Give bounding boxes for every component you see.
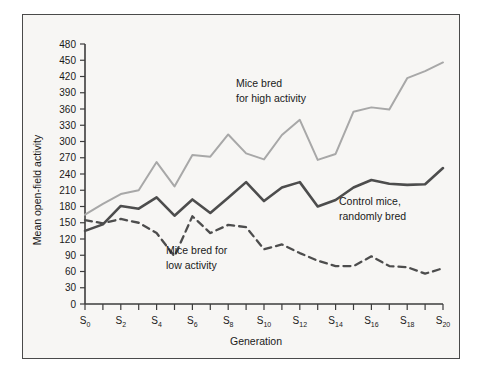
x-tick-label: S12 bbox=[293, 315, 308, 328]
x-tick-label: S6 bbox=[187, 315, 198, 328]
y-tick-label: 420 bbox=[59, 71, 76, 82]
y-tick-label: 210 bbox=[59, 185, 76, 196]
x-tick-label: S2 bbox=[116, 315, 127, 328]
x-tick-label: S10 bbox=[257, 315, 272, 328]
annotation-low-line1: Mice bred for bbox=[166, 244, 228, 256]
annotation-control-line2: randomly bred bbox=[339, 210, 406, 222]
y-tick-label: 30 bbox=[65, 282, 77, 293]
x-tick-label: S20 bbox=[436, 315, 451, 328]
y-tick-label: 450 bbox=[59, 55, 76, 66]
y-tick-label: 90 bbox=[65, 250, 77, 261]
y-tick-label: 390 bbox=[59, 87, 76, 98]
x-tick-label: S16 bbox=[364, 315, 379, 328]
chart-plot-area: Mean open-field activity 030609012015018… bbox=[23, 15, 459, 358]
y-tick-label: 300 bbox=[59, 136, 76, 147]
x-tick-label: S18 bbox=[400, 315, 415, 328]
y-tick-label: 150 bbox=[59, 217, 76, 228]
annotation-control-line1: Control mice, bbox=[339, 195, 401, 207]
x-axis-tick-labels: S0S2S4S6S8S10S12S14S16S18S20 bbox=[80, 315, 451, 328]
y-tick-label: 330 bbox=[59, 120, 76, 131]
series-line-low-activity bbox=[85, 216, 443, 273]
chart-figure: Mean open-field activity 030609012015018… bbox=[22, 14, 460, 359]
x-tick-label: S8 bbox=[223, 315, 234, 328]
y-tick-label: 240 bbox=[59, 169, 76, 180]
y-tick-label: 480 bbox=[59, 39, 76, 50]
y-axis-tick-labels: 0306090120150180210240270300330360390420… bbox=[59, 39, 76, 310]
y-tick-label: 180 bbox=[59, 201, 76, 212]
annotation-high-line1: Mice bred bbox=[236, 77, 282, 89]
x-axis-tick-marks bbox=[85, 304, 443, 310]
x-tick-label: S4 bbox=[151, 315, 162, 328]
y-tick-label: 60 bbox=[65, 266, 77, 277]
y-tick-label: 120 bbox=[59, 234, 76, 245]
y-tick-label: 360 bbox=[59, 104, 76, 115]
x-axis-label: Generation bbox=[230, 335, 282, 347]
line-chart-svg: Mean open-field activity 030609012015018… bbox=[23, 15, 461, 360]
y-axis-label: Mean open-field activity bbox=[31, 134, 43, 245]
y-tick-label: 0 bbox=[70, 299, 76, 310]
x-tick-label: S14 bbox=[328, 315, 343, 328]
annotation-high-line2: for high activity bbox=[236, 92, 307, 104]
y-tick-label: 270 bbox=[59, 152, 76, 163]
annotation-low-line2: low activity bbox=[166, 259, 218, 271]
x-tick-label: S0 bbox=[80, 315, 91, 328]
